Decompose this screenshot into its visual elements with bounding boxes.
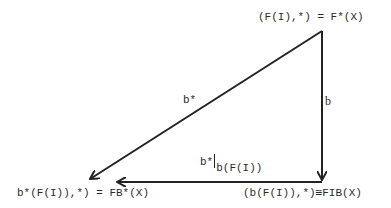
node-top-right: (F(I),*) = F*(X)	[258, 11, 364, 23]
label-horizontal-arrow: b*b(F(I))	[200, 154, 262, 168]
label-horizontal-subscript: b(F(I))	[216, 162, 262, 174]
node-bottom-right: (b(F(I)),*)≅FIB(X)	[243, 187, 362, 199]
label-vertical-arrow: b	[325, 95, 331, 107]
label-diagonal-arrow: b*	[183, 94, 196, 106]
label-horizontal-main: b*	[200, 156, 213, 168]
node-bottom-left: b*(F(I)),*) = FB*(X)	[17, 187, 149, 199]
